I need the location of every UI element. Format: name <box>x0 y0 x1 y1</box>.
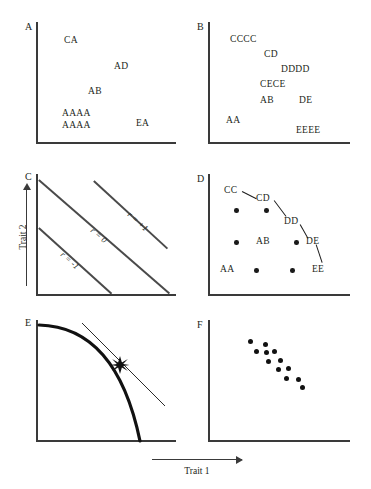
panel-c-line-label-r-zero: r = 0 <box>89 225 110 245</box>
panel-a: A CA AD AB AAAA AAAA EA <box>36 22 176 144</box>
panel-d-label-ee: EE <box>312 265 324 275</box>
panel-e-frontier-graphic <box>36 320 176 442</box>
panel-f-point <box>278 358 283 363</box>
panel-d-leader-cc-cd <box>242 191 257 199</box>
panel-d-dot <box>234 208 239 213</box>
panel-f-point <box>272 349 277 354</box>
panel-d-label-dd: DD <box>284 217 298 227</box>
panel-f-point <box>300 385 305 390</box>
panel-a-label-ab: AB <box>88 87 102 97</box>
panel-a-y-axis <box>36 22 38 144</box>
panel-c-x-axis <box>36 294 176 296</box>
panel-a-label-ca: CA <box>64 36 78 46</box>
panel-f-point <box>264 350 269 355</box>
panel-b-label-cccc: CCCC <box>230 35 257 45</box>
panel-d-leader-de-ee <box>315 244 322 262</box>
panel-d-x-axis <box>208 294 350 296</box>
panel-a-label-ea: EA <box>136 119 149 129</box>
panel-a-label-aaaa-1: AAAA <box>62 109 91 119</box>
panel-f-point <box>254 349 259 354</box>
panel-b-label-de: DE <box>299 96 312 106</box>
panel-a-x-axis <box>36 142 176 144</box>
panel-d-y-axis <box>208 174 210 296</box>
panel-f: F <box>208 320 350 442</box>
panel-f-x-axis <box>208 440 350 442</box>
panel-f-point <box>286 366 291 371</box>
panel-a-label-ad: AD <box>114 62 128 72</box>
panel-f-letter: F <box>197 320 203 330</box>
panel-c-line-label-r-plus-1: r = +1 <box>126 209 151 233</box>
panel-b-label-aa: AA <box>226 116 240 126</box>
panel-f-point <box>266 359 271 364</box>
panel-b-letter: B <box>197 22 204 32</box>
panel-d-label-de: DE <box>306 237 319 247</box>
panel-b-label-eeee: EEEE <box>296 126 320 136</box>
panel-b-label-cece: CECE <box>260 80 285 90</box>
panel-c-y-axis <box>36 174 38 296</box>
panel-b-label-ab: AB <box>260 96 274 106</box>
panel-d-dot <box>290 268 295 273</box>
panel-d-dot <box>254 268 259 273</box>
panel-b-label-dddd: DDDD <box>281 65 310 75</box>
panel-d-dot <box>264 208 269 213</box>
panel-d-dot <box>294 240 299 245</box>
panel-f-point <box>296 377 301 382</box>
panel-e: E <box>36 320 176 442</box>
panel-f-point <box>284 376 289 381</box>
panel-b-x-axis <box>208 142 350 144</box>
panel-f-y-axis <box>208 320 210 442</box>
panel-d: D CC CD DD AB DE AA EE <box>208 174 350 296</box>
trait-1-axis-title: Trait 1 <box>152 466 242 476</box>
panel-b-y-axis <box>208 22 210 144</box>
panel-c-line-label-r-minus-1: r = -1 <box>59 249 82 271</box>
trait-2-axis-title: Trait 2 <box>18 207 28 267</box>
panel-d-dot <box>234 240 239 245</box>
panel-b: B CCCC CD DDDD CECE AB DE AA EEEE <box>208 22 350 144</box>
panel-d-label-ab: AB <box>256 237 270 247</box>
panel-f-point <box>276 367 281 372</box>
panel-d-label-cc: CC <box>224 186 237 196</box>
panel-b-label-cd: CD <box>264 50 278 60</box>
panel-c-letter: C <box>25 172 32 182</box>
panel-d-label-cd: CD <box>256 194 270 204</box>
panel-e-letter: E <box>25 318 31 328</box>
figure-panel-grid: A CA AD AB AAAA AAAA EA B CCCC CD DDDD C… <box>0 0 371 489</box>
panel-f-point <box>248 339 253 344</box>
panel-d-leader-cd-dd <box>273 200 286 217</box>
panel-f-point <box>263 342 268 347</box>
panel-e-frontier-curve <box>39 325 140 441</box>
panel-d-letter: D <box>197 174 204 184</box>
trait-1-arrow <box>152 459 242 460</box>
panel-c: C r = +1 r = 0 r = -1 <box>36 174 176 296</box>
panel-a-letter: A <box>25 22 32 32</box>
panel-d-label-aa: AA <box>220 265 234 275</box>
panel-a-label-aaaa-2: AAAA <box>62 121 91 131</box>
